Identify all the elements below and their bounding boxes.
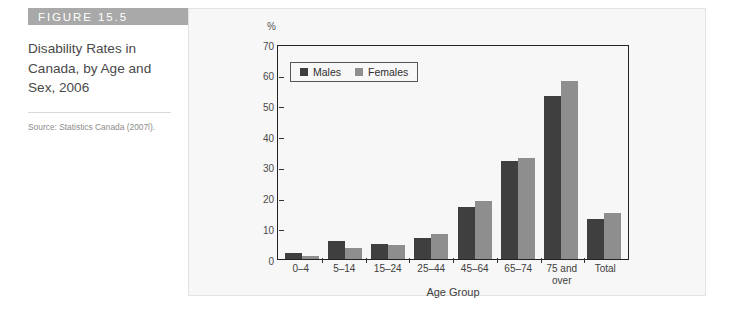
bar-group (414, 46, 448, 259)
bar-males (501, 161, 518, 259)
chart-legend: MalesFemales (290, 62, 418, 82)
x-axis-category-label: 25–44 (412, 263, 450, 286)
bar-group (544, 46, 578, 259)
x-axis-category-label: 45–64 (456, 263, 494, 286)
bar-males (587, 219, 604, 259)
y-axis-tick-label: 0 (268, 256, 274, 266)
x-axis-category-label: Total (586, 263, 624, 286)
y-axis-tick-label: 20 (263, 195, 274, 205)
bar-males (458, 207, 475, 259)
legend-label: Females (368, 66, 408, 78)
bar-group (587, 46, 621, 259)
y-axis-unit-label: % (267, 21, 276, 32)
figure-number-band: FIGURE 15.5 (28, 8, 188, 25)
plot-area: % 010203040506070 MalesFemales 0–45–1415… (189, 9, 707, 297)
figure-container: FIGURE 15.5 Disability Rates in Canada, … (0, 0, 734, 313)
y-axis-tick-label: 60 (263, 72, 274, 82)
bar-females (604, 213, 621, 259)
bar-males (328, 241, 345, 259)
x-axis-category-label: 75 and over (543, 263, 581, 286)
x-axis-title: Age Group (277, 286, 629, 298)
legend-swatch-icon (300, 68, 308, 76)
bar-females (518, 158, 535, 259)
y-axis-tick-label: 70 (263, 41, 274, 51)
x-axis-category-label: 15–24 (369, 263, 407, 286)
y-axis-tick-label: 10 (263, 225, 274, 235)
legend-item-females: Females (355, 66, 408, 78)
bar-males (544, 96, 561, 259)
bar-females (475, 201, 492, 259)
caption-divider (28, 112, 171, 113)
bar-group (458, 46, 492, 259)
figure-title: Disability Rates in Canada, by Age and S… (28, 39, 180, 98)
figure-caption-column: FIGURE 15.5 Disability Rates in Canada, … (28, 8, 188, 305)
chart-panel: % 010203040506070 MalesFemales 0–45–1415… (188, 8, 706, 296)
bar-group (501, 46, 535, 259)
figure-source-note: Source: Statistics Canada (2007l). (28, 122, 178, 134)
bar-males (414, 238, 431, 260)
x-axis-category-label: 5–14 (325, 263, 363, 286)
bar-females (561, 81, 578, 259)
legend-item-males: Males (300, 66, 341, 78)
legend-label: Males (313, 66, 341, 78)
bar-females (431, 234, 448, 259)
figure-number-label: FIGURE 15.5 (38, 11, 128, 23)
legend-swatch-icon (355, 68, 363, 76)
bar-males (371, 244, 388, 259)
x-axis-category-label: 65–74 (499, 263, 537, 286)
bar-females (388, 245, 405, 259)
y-axis-tick-label: 30 (263, 164, 274, 174)
x-axis-category-labels: 0–45–1415–2425–4445–6465–7475 and overTo… (277, 263, 629, 286)
y-axis-tick-label: 40 (263, 133, 274, 143)
x-axis-category-label: 0–4 (282, 263, 320, 286)
y-axis-tick-label: 50 (263, 102, 274, 112)
